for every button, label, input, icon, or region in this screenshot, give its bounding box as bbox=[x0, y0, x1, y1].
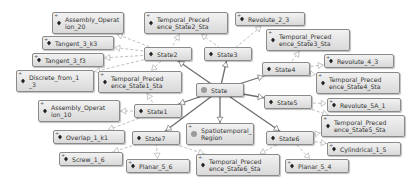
graph-node-state[interactable]: State bbox=[196, 83, 244, 97]
graph-node-revolute43[interactable]: +Revolute_4_3 bbox=[324, 54, 394, 68]
graph-node-planar56[interactable]: +Planar_5_6 bbox=[126, 159, 190, 173]
node-label: State bbox=[211, 87, 227, 94]
arrowhead-icon bbox=[166, 125, 172, 130]
graph-node-tp-state1[interactable]: +Temporal_Preced ence_State1_Sta bbox=[98, 71, 182, 93]
diamond-icon bbox=[271, 38, 275, 43]
graph-node-state7[interactable]: State7 bbox=[132, 131, 180, 145]
node-label: Revolute_5A_1 bbox=[340, 102, 385, 109]
expand-icon[interactable]: + bbox=[329, 99, 333, 104]
expand-icon[interactable]: + bbox=[287, 160, 291, 165]
node-label: Revolute_2_3 bbox=[248, 16, 289, 23]
diamond-icon bbox=[149, 21, 153, 26]
node-label: Tangent_3_k3 bbox=[55, 40, 97, 47]
node-label: Temporal_Preced ence_State5_Sta bbox=[334, 119, 386, 133]
diamond-icon bbox=[43, 109, 47, 114]
node-label: Revolute_4_3 bbox=[337, 58, 378, 65]
arrowhead-icon bbox=[105, 54, 110, 60]
diamond-icon bbox=[139, 109, 143, 114]
graph-node-tp-state6[interactable]: +Temporal_Preced ence_State6_Sta bbox=[196, 154, 280, 176]
diamond-icon bbox=[326, 124, 330, 129]
expand-icon[interactable]: + bbox=[268, 30, 272, 35]
expand-icon[interactable]: + bbox=[18, 71, 22, 76]
graph-node-spatio[interactable]: +Spatiotemporal_ Region bbox=[186, 123, 254, 145]
node-label: Tangent_3_f3 bbox=[45, 57, 86, 64]
arrowhead-icon bbox=[121, 108, 126, 114]
diamond-icon bbox=[21, 79, 25, 84]
node-label: State7 bbox=[145, 135, 165, 142]
graph-node-tp-state2[interactable]: +Temporal_Preced ence_State2_Sta bbox=[144, 12, 228, 34]
node-label: Temporal_Preced ence_State2_Sta bbox=[157, 16, 209, 30]
graph-node-state5[interactable]: State5 bbox=[264, 95, 312, 109]
expand-icon[interactable]: + bbox=[188, 124, 192, 129]
expand-icon[interactable]: + bbox=[146, 13, 150, 18]
graph-node-overlap[interactable]: +Overlap_1_k1 bbox=[53, 130, 125, 144]
arrowhead-icon bbox=[321, 140, 326, 146]
expand-icon[interactable]: + bbox=[198, 155, 202, 160]
arrowhead-icon bbox=[321, 100, 326, 106]
diamond-icon bbox=[57, 21, 61, 26]
diamond-icon bbox=[201, 163, 205, 168]
expand-icon[interactable]: + bbox=[61, 153, 65, 158]
graph-node-revolute5a1[interactable]: +Revolute_5A_1 bbox=[327, 98, 401, 112]
graph-node-discrete[interactable]: +Discrete_from_1 _3 bbox=[16, 70, 94, 92]
expand-icon[interactable]: + bbox=[55, 131, 59, 136]
diamond-icon bbox=[271, 136, 275, 141]
graph-node-screw[interactable]: +Screw_1_6 bbox=[59, 152, 123, 166]
arrowhead-icon bbox=[258, 94, 263, 100]
node-label: Assembly_Operat ion_10 bbox=[51, 104, 105, 118]
arrowhead-icon bbox=[217, 117, 223, 122]
arrowhead-icon bbox=[310, 71, 315, 77]
expand-icon[interactable]: + bbox=[40, 101, 44, 106]
diamond-icon bbox=[103, 80, 107, 85]
class-circle-icon bbox=[191, 131, 197, 137]
arrowhead-icon bbox=[294, 52, 299, 58]
diamond-icon bbox=[137, 136, 141, 141]
arrowhead-icon bbox=[318, 62, 323, 68]
expand-icon[interactable]: + bbox=[326, 55, 330, 60]
diamond-icon bbox=[269, 100, 273, 105]
arrowhead-icon bbox=[115, 45, 120, 51]
expand-icon[interactable]: + bbox=[100, 72, 104, 77]
graph-node-tp-state4[interactable]: +Temporal_Preced ence_State4_Sta bbox=[316, 72, 400, 94]
node-label: State2 bbox=[157, 51, 177, 58]
graph-node-revolute23[interactable]: +Revolute_2_3 bbox=[235, 12, 305, 26]
arrowhead-icon bbox=[147, 94, 152, 100]
graph-node-tp-state5[interactable]: +Temporal_Preced ence_State5_Sta bbox=[321, 115, 405, 137]
graph-node-assembly20[interactable]: +Assembly_Operat ion_20 bbox=[52, 12, 124, 34]
diamond-icon bbox=[209, 52, 213, 57]
expand-icon[interactable]: + bbox=[323, 116, 327, 121]
graph-node-state1[interactable]: State1 bbox=[134, 104, 182, 118]
arrowhead-icon bbox=[255, 27, 261, 32]
arrowhead-icon bbox=[222, 62, 228, 67]
expand-icon[interactable]: + bbox=[54, 13, 58, 18]
diamond-icon bbox=[267, 67, 271, 72]
class-circle-icon bbox=[201, 87, 207, 93]
expand-icon[interactable]: + bbox=[44, 37, 48, 42]
graph-node-state3[interactable]: State3 bbox=[204, 47, 252, 61]
node-label: Temporal_Preced ence_State1_Sta bbox=[111, 75, 163, 89]
node-label: State6 bbox=[279, 135, 299, 142]
expand-icon[interactable]: + bbox=[329, 143, 333, 148]
node-label: Planar_5_6 bbox=[139, 163, 173, 170]
graph-node-tangent-k3[interactable]: +Tangent_3_k3 bbox=[42, 36, 114, 50]
graph-node-assembly10[interactable]: +Assembly_Operat ion_10 bbox=[38, 100, 120, 122]
diamond-icon bbox=[321, 81, 325, 86]
node-label: State3 bbox=[217, 51, 237, 58]
arrowhead-icon bbox=[117, 33, 123, 39]
graph-node-tangent-f3[interactable]: +Tangent_3_f3 bbox=[32, 53, 104, 67]
diamond-icon bbox=[149, 52, 153, 57]
graph-node-state6[interactable]: State6 bbox=[266, 131, 314, 145]
node-label: Cylindrical_1_5 bbox=[340, 146, 387, 153]
expand-icon[interactable]: + bbox=[34, 54, 38, 59]
graph-node-state4[interactable]: State4 bbox=[262, 62, 310, 76]
graph-node-tp-state3[interactable]: +Temporal_Preced ence_State3_Sta bbox=[266, 29, 350, 51]
node-label: Screw_1_6 bbox=[72, 156, 105, 163]
expand-icon[interactable]: + bbox=[318, 73, 322, 78]
graph-node-state2[interactable]: State2 bbox=[144, 47, 192, 61]
graph-node-planar54[interactable]: +Planar_5_4 bbox=[285, 159, 349, 173]
graph-node-cylindrical[interactable]: +Cylindrical_1_5 bbox=[327, 142, 401, 156]
arrowhead-icon bbox=[154, 153, 160, 158]
expand-icon[interactable]: + bbox=[128, 160, 132, 165]
expand-icon[interactable]: + bbox=[237, 13, 241, 18]
node-label: State5 bbox=[277, 99, 297, 106]
